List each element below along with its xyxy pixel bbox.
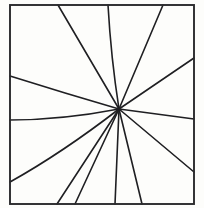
figure-container: [0, 0, 204, 208]
radiating-lines-figure: [0, 0, 204, 208]
